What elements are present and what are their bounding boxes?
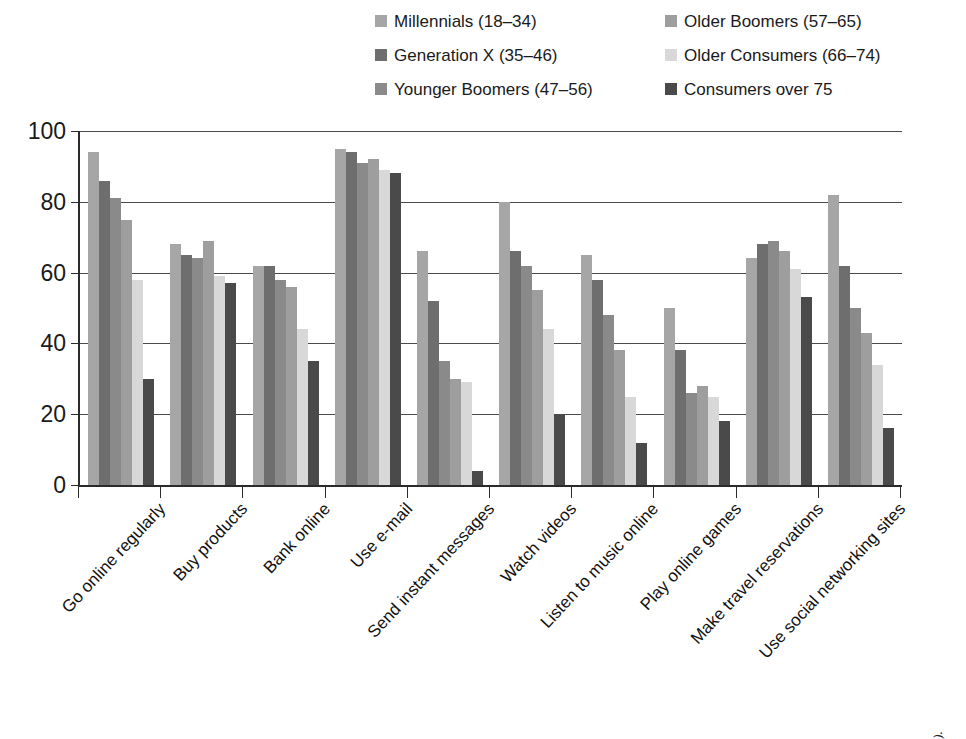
legend-swatch-icon [375, 83, 387, 95]
bar-group [573, 131, 655, 485]
bar [828, 195, 839, 485]
bar [379, 170, 390, 485]
bar [253, 266, 264, 485]
bar [861, 333, 872, 485]
bar [286, 287, 297, 485]
legend-swatch-icon [375, 49, 387, 61]
y-axis-tick-mark [71, 414, 80, 415]
bar-group [655, 131, 737, 485]
bar [417, 251, 428, 485]
y-axis-tick-mark [71, 202, 80, 203]
bar [121, 220, 132, 486]
legend-item: Older Consumers (66–74) [665, 47, 915, 64]
bar [450, 379, 461, 485]
x-axis-tick-mark [653, 487, 654, 498]
bar [872, 365, 883, 485]
legend-swatch-icon [375, 15, 387, 27]
bar [390, 173, 401, 485]
y-axis-tick-label: 80 [40, 190, 66, 213]
x-axis-tick-mark [818, 487, 819, 498]
source-note: Source: Based on selected portions of a … [930, 731, 946, 739]
legend-swatch-icon [665, 15, 677, 27]
bar-group [162, 131, 244, 485]
legend-item: Younger Boomers (47–56) [375, 81, 665, 98]
bar [472, 471, 483, 485]
bar [746, 258, 757, 485]
legend-item-label: Generation X (35–46) [394, 47, 558, 64]
bar [510, 251, 521, 485]
bar [521, 266, 532, 485]
bar [335, 149, 346, 485]
y-axis-tick-label: 100 [28, 120, 66, 143]
bar [214, 276, 225, 485]
bar-group [327, 131, 409, 485]
bar [192, 258, 203, 485]
bar [203, 241, 214, 485]
x-axis-tick-mark [900, 487, 901, 498]
x-axis-tick-mark [407, 487, 408, 498]
bar [686, 393, 697, 485]
x-axis-label: Bank online [260, 500, 333, 577]
x-axis-tick-mark [736, 487, 737, 498]
x-axis-tick-mark [571, 487, 572, 498]
bar [170, 244, 181, 485]
bar [664, 308, 675, 485]
x-axis-label: Buy products [171, 500, 251, 584]
bar [768, 241, 779, 485]
y-axis-tick-label: 60 [40, 261, 66, 284]
bar-group [738, 131, 820, 485]
plot-area: 020406080100 [78, 131, 902, 487]
x-axis-tick-mark [242, 487, 243, 498]
bar-group [820, 131, 902, 485]
bar-group [409, 131, 491, 485]
bar [368, 159, 379, 485]
bar [461, 382, 472, 485]
y-axis-tick-label: 40 [40, 332, 66, 355]
x-axis-label: Watch videos [498, 500, 580, 586]
bar [143, 379, 154, 485]
bar [581, 255, 592, 485]
bar [110, 198, 121, 485]
bar [88, 152, 99, 485]
bar [850, 308, 861, 485]
bar [308, 361, 319, 485]
bar [779, 251, 790, 485]
x-axis-label: Go online regularly [59, 500, 169, 616]
bar [428, 301, 439, 485]
y-axis-tick-label: 0 [53, 474, 66, 497]
bar [132, 280, 143, 485]
bar [297, 329, 308, 485]
x-axis-tick-mark [489, 487, 490, 498]
bar [357, 163, 368, 485]
bar [839, 266, 850, 485]
legend-swatch-icon [665, 49, 677, 61]
bar [439, 361, 450, 485]
bar [719, 421, 730, 485]
bar [757, 244, 768, 485]
legend-swatch-icon [665, 83, 677, 95]
bar [801, 297, 812, 485]
bar [625, 397, 636, 486]
bar [592, 280, 603, 485]
x-axis-label: Use e-mail [347, 500, 415, 571]
y-axis-tick-mark [71, 343, 80, 344]
legend-item-label: Consumers over 75 [684, 81, 832, 98]
chart-legend: Millennials (18–34)Older Boomers (57–65)… [375, 4, 915, 106]
legend-item: Consumers over 75 [665, 81, 915, 98]
x-axis-label: Use social networking sites [756, 500, 908, 662]
y-axis-tick-mark [71, 131, 80, 132]
bar [675, 350, 686, 485]
bar-group [244, 131, 326, 485]
bar-group [491, 131, 573, 485]
bar [225, 283, 236, 485]
bar [499, 202, 510, 485]
legend-item-label: Younger Boomers (47–56) [394, 81, 593, 98]
bar [554, 414, 565, 485]
bar [99, 181, 110, 485]
bar [543, 329, 554, 485]
y-axis-tick-mark [71, 273, 80, 274]
bar [790, 269, 801, 485]
bar [275, 280, 286, 485]
bar [883, 428, 894, 485]
x-axis-tick-mark [78, 487, 79, 498]
